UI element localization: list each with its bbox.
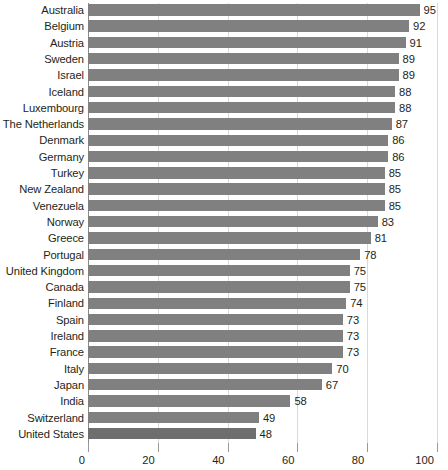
value-label: 85 (389, 181, 401, 197)
bar (88, 37, 406, 48)
bar (88, 135, 388, 146)
x-axis: 020406080100 (88, 443, 437, 470)
bar-row: The Netherlands87 (88, 117, 437, 133)
bar-row: Norway83 (88, 215, 437, 231)
bar (88, 216, 378, 227)
category-label: Turkey (51, 165, 84, 181)
value-label: 70 (336, 361, 348, 377)
bar (88, 69, 399, 80)
value-label: 75 (354, 279, 366, 295)
value-label: 85 (389, 165, 401, 181)
bar-row: Austria91 (88, 36, 437, 52)
bar-chart: Australia95Belgium92Austria91Sweden89Isr… (0, 0, 448, 470)
category-label: Portugal (43, 247, 84, 263)
category-label: Norway (47, 214, 84, 230)
value-label: 91 (410, 35, 422, 51)
x-tick-mark (228, 443, 229, 452)
x-tick-mark (88, 443, 89, 452)
value-label: 67 (326, 377, 338, 393)
value-label: 58 (294, 393, 306, 409)
bar (88, 298, 346, 309)
plot-area: Australia95Belgium92Austria91Sweden89Isr… (88, 3, 437, 443)
bar-row: Turkey85 (88, 166, 437, 182)
bar (88, 200, 385, 211)
x-tick-mark (437, 443, 438, 452)
value-label: 85 (389, 198, 401, 214)
category-label: Greece (48, 230, 84, 246)
bar (88, 379, 322, 390)
value-label: 89 (403, 67, 415, 83)
category-label: New Zealand (19, 181, 84, 197)
bar-row: Canada75 (88, 280, 437, 296)
category-label: France (50, 344, 84, 360)
value-label: 86 (392, 132, 404, 148)
bar (88, 346, 343, 357)
bar-row: Australia95 (88, 3, 437, 19)
bar (88, 232, 371, 243)
bar-row: Japan67 (88, 378, 437, 394)
bar (88, 167, 385, 178)
bar (88, 249, 360, 260)
bar-row: France73 (88, 345, 437, 361)
value-label: 74 (350, 295, 362, 311)
bar (88, 102, 395, 113)
category-label: India (60, 393, 84, 409)
bar-row: United Kingdom75 (88, 264, 437, 280)
bar-row: Switzerland49 (88, 411, 437, 427)
bar (88, 183, 385, 194)
bar (88, 395, 290, 406)
category-label: Iceland (49, 84, 84, 100)
category-label: Germany (39, 149, 84, 165)
bar (88, 363, 332, 374)
bar (88, 265, 350, 276)
bar-row: Denmark86 (88, 133, 437, 149)
x-tick-label: 80 (352, 452, 367, 468)
value-label: 88 (399, 84, 411, 100)
bar-row: United States48 (88, 427, 437, 443)
x-tick-mark (297, 443, 298, 452)
value-label: 88 (399, 100, 411, 116)
bar-row: Israel89 (88, 68, 437, 84)
bar (88, 314, 343, 325)
bar-row: Finland74 (88, 296, 437, 312)
bar (88, 281, 350, 292)
bar-row: Germany86 (88, 150, 437, 166)
value-label: 92 (413, 18, 425, 34)
x-tick-label: 0 (79, 452, 88, 468)
bar-row: Venezuela85 (88, 199, 437, 215)
category-label: Australia (41, 2, 84, 18)
category-label: Ireland (50, 328, 84, 344)
value-label: 95 (424, 2, 436, 18)
bar (88, 118, 392, 129)
category-label: Belgium (44, 18, 84, 34)
value-label: 89 (403, 51, 415, 67)
x-tick-label: 40 (212, 452, 227, 468)
bar (88, 151, 388, 162)
value-label: 49 (263, 410, 275, 426)
category-label: United States (18, 426, 84, 442)
value-label: 73 (347, 312, 359, 328)
bar-row: Italy70 (88, 362, 437, 378)
category-label: Japan (54, 377, 84, 393)
bar-row: Ireland73 (88, 329, 437, 345)
category-label: Denmark (39, 132, 84, 148)
bar-row: Iceland88 (88, 85, 437, 101)
value-label: 87 (396, 116, 408, 132)
bar-row: Luxembourg88 (88, 101, 437, 117)
value-label: 75 (354, 263, 366, 279)
bar (88, 4, 420, 15)
bar-row: Greece81 (88, 231, 437, 247)
bar-row: Spain73 (88, 313, 437, 329)
bar (88, 53, 399, 64)
x-tick-mark (367, 443, 368, 452)
bar (88, 20, 409, 31)
bar (88, 330, 343, 341)
category-label: Canada (45, 279, 84, 295)
category-label: Austria (50, 35, 84, 51)
category-label: Italy (64, 361, 84, 377)
value-label: 48 (260, 426, 272, 442)
bar-row: Sweden89 (88, 52, 437, 68)
value-label: 73 (347, 328, 359, 344)
bar-row: India58 (88, 394, 437, 410)
value-label: 83 (382, 214, 394, 230)
